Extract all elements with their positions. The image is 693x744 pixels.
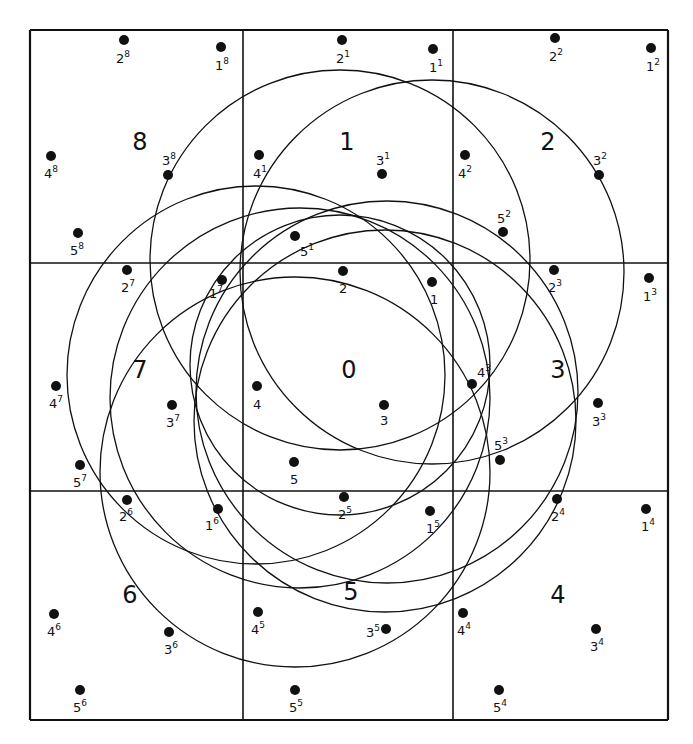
point-label: 27 bbox=[121, 278, 135, 295]
point-dot bbox=[75, 460, 85, 470]
point-dot bbox=[377, 169, 387, 179]
point-dot bbox=[164, 627, 174, 637]
cell-label: 3 bbox=[550, 356, 565, 384]
cell-label: 4 bbox=[550, 581, 565, 609]
point-label: 26 bbox=[119, 507, 133, 524]
point-label: 32 bbox=[593, 151, 607, 168]
point-dot bbox=[379, 400, 389, 410]
neighborhood-circle bbox=[240, 80, 624, 464]
point-dot bbox=[75, 685, 85, 695]
point-dot bbox=[428, 44, 438, 54]
point-label: 44 bbox=[457, 621, 471, 638]
point-dot bbox=[46, 151, 56, 161]
sample-point: 1 bbox=[427, 277, 438, 307]
point-label: 46 bbox=[47, 622, 61, 639]
sample-point: 21 bbox=[336, 35, 350, 66]
point-label: 12 bbox=[646, 57, 660, 74]
point-label: 42 bbox=[458, 164, 472, 181]
sample-point: 14 bbox=[641, 504, 655, 534]
point-label: 34 bbox=[590, 637, 604, 654]
sample-point: 48 bbox=[44, 151, 58, 181]
point-dot bbox=[427, 277, 437, 287]
point-label: 47 bbox=[49, 394, 63, 411]
point-label: 25 bbox=[338, 505, 352, 522]
point-label: 23 bbox=[548, 278, 562, 295]
point-label: 38 bbox=[162, 151, 176, 168]
sample-point: 3 bbox=[379, 400, 389, 428]
sample-point: 22 bbox=[549, 33, 563, 64]
point-dot bbox=[641, 504, 651, 514]
point-dot bbox=[425, 506, 435, 516]
point-label: 58 bbox=[70, 241, 84, 258]
cell-label: 7 bbox=[132, 356, 147, 384]
point-label: 52 bbox=[497, 209, 511, 226]
point-label: 21 bbox=[336, 49, 350, 66]
point-dot bbox=[289, 457, 299, 467]
cell-labels: 812703654 bbox=[122, 128, 565, 609]
point-dot bbox=[254, 150, 264, 160]
point-dot bbox=[494, 685, 504, 695]
sample-point: 46 bbox=[47, 609, 61, 639]
sample-point: 18 bbox=[215, 42, 229, 73]
sample-point: 57 bbox=[73, 460, 87, 490]
sample-point: 44 bbox=[457, 608, 471, 638]
point-label: 22 bbox=[549, 47, 563, 64]
sample-point: 13 bbox=[643, 273, 657, 304]
sample-point: 24 bbox=[551, 494, 565, 524]
sample-point: 11 bbox=[428, 44, 443, 75]
point-label: 31 bbox=[376, 151, 390, 168]
point-label: 3 bbox=[380, 413, 388, 428]
point-dot bbox=[591, 624, 601, 634]
cell-label: 6 bbox=[122, 581, 137, 609]
point-dot bbox=[552, 494, 562, 504]
cell-label: 2 bbox=[540, 128, 555, 156]
point-label: 51 bbox=[300, 242, 314, 259]
point-dot bbox=[458, 608, 468, 618]
cell-label: 0 bbox=[341, 356, 356, 384]
sample-point: 42 bbox=[458, 150, 472, 181]
sample-point: 2 bbox=[338, 266, 348, 296]
point-label: 11 bbox=[429, 58, 443, 75]
sample-point: 32 bbox=[593, 151, 607, 180]
sample-point: 52 bbox=[497, 209, 511, 237]
point-dot bbox=[460, 150, 470, 160]
point-label: 2 bbox=[339, 281, 347, 296]
point-dot bbox=[593, 398, 603, 408]
point-dot bbox=[594, 170, 604, 180]
sample-point: 4 bbox=[252, 381, 262, 412]
sample-point: 55 bbox=[289, 685, 303, 715]
sample-point: 15 bbox=[425, 506, 440, 536]
sample-point: 12 bbox=[646, 43, 660, 74]
point-dot bbox=[167, 400, 177, 410]
sample-point: 45 bbox=[251, 607, 265, 637]
point-label: 55 bbox=[289, 698, 303, 715]
point-label: 35 bbox=[366, 623, 380, 640]
point-label: 16 bbox=[205, 516, 219, 533]
sample-point: 53 bbox=[494, 436, 508, 465]
point-label: 15 bbox=[426, 519, 440, 536]
sample-point: 56 bbox=[73, 685, 87, 715]
point-dot bbox=[51, 381, 61, 391]
point-dot bbox=[467, 379, 477, 389]
point-label: 36 bbox=[164, 640, 178, 657]
sample-point: 38 bbox=[162, 151, 176, 180]
point-label: 54 bbox=[493, 698, 507, 715]
point-label: 1 bbox=[430, 292, 438, 307]
sample-point: 37 bbox=[166, 400, 180, 430]
point-label: 5 bbox=[290, 472, 298, 487]
sample-point: 35 bbox=[366, 623, 391, 640]
point-label: 33 bbox=[592, 412, 606, 429]
point-dot bbox=[646, 43, 656, 53]
point-dot bbox=[216, 42, 226, 52]
sample-point: 47 bbox=[49, 381, 63, 411]
sample-point: 43 bbox=[467, 363, 491, 389]
sample-point: 36 bbox=[164, 627, 178, 657]
point-dot bbox=[213, 504, 223, 514]
sample-point: 31 bbox=[376, 151, 390, 179]
point-dot bbox=[119, 35, 129, 45]
sample-point: 34 bbox=[590, 624, 604, 654]
point-label: 13 bbox=[643, 287, 657, 304]
point-dot bbox=[122, 265, 132, 275]
point-label: 53 bbox=[494, 436, 508, 453]
point-dot bbox=[290, 685, 300, 695]
